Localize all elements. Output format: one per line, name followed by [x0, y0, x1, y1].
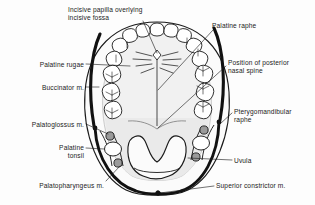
- label-palatopharyngeus: Palatopharyngeus m.: [8, 182, 104, 190]
- label-palatine-tonsil: Palatine tonsil: [36, 144, 84, 160]
- diagram-artwork: [0, 0, 315, 205]
- label-palatine-rugae: Palatine rugae: [12, 61, 84, 69]
- palatoglossus-section-right: [200, 126, 208, 134]
- label-palatine-raphe: Palatine raphe: [212, 22, 282, 30]
- label-incisive-papilla: Incisive papilla overlying incisive foss…: [68, 6, 164, 22]
- palatopharyngeus-section-right: [192, 153, 200, 161]
- label-posterior-nasal-spine: Position of posterior nasal spine: [228, 59, 314, 75]
- palatoglossus-section-left: [106, 132, 114, 140]
- label-superior-constrictor: Superior constrictor m.: [216, 182, 315, 190]
- label-pterygomandibular-raphe: Pterygomandibular raphe: [234, 108, 314, 124]
- label-buccinator: Buccinator m.: [13, 84, 84, 92]
- palatopharyngeus-section-left: [114, 159, 122, 167]
- label-palatoglossus: Palatoglossus m.: [5, 121, 84, 129]
- palate-anatomy-figure: Incisive papilla overlying incisive foss…: [0, 0, 315, 205]
- label-uvula: Uvula: [234, 157, 274, 165]
